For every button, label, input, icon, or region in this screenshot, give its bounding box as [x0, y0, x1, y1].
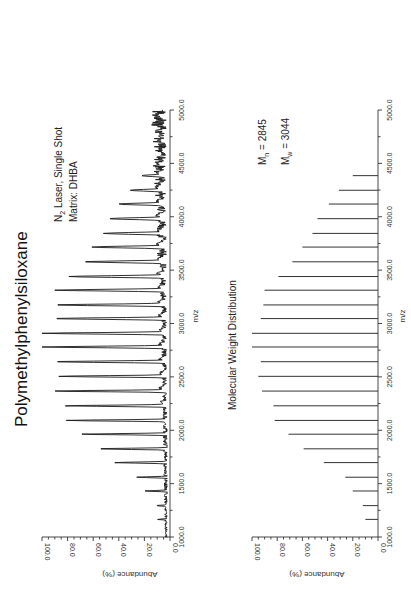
- mz-tick-label: 3500.0: [386, 259, 393, 281]
- chart-title: Polymethylphenylsiloxane: [12, 231, 31, 427]
- mz-tick-label: 4500.0: [386, 153, 393, 175]
- mz-tick-label: 3000.0: [386, 313, 393, 335]
- mz-tick-label: 4000.0: [386, 206, 393, 228]
- mz-tick-label: 1500.0: [178, 473, 185, 495]
- abundance-tick-label: 0.0: [380, 543, 387, 553]
- mass-spectrum-chart: 1000.01500.02000.02500.03000.03500.04000…: [42, 99, 200, 579]
- matrix-annotation: Matrix: DHBA: [68, 161, 79, 222]
- abundance-tick-label: 20.0: [354, 543, 361, 557]
- abundance-tick-label: 60.0: [95, 543, 102, 557]
- abundance-tick-label: 80.0: [279, 543, 286, 557]
- mwd-sticks: [252, 176, 378, 520]
- mn-rest: = 2845: [257, 119, 268, 153]
- mwd-chart: 1000.01500.02000.02500.03000.03500.04000…: [252, 99, 407, 579]
- abundance-tick-label: 40.0: [120, 543, 127, 557]
- mz-tick-label: 2500.0: [178, 366, 185, 388]
- mn-annotation: Mn = 2845: [257, 119, 270, 165]
- laser-prefix: N: [53, 215, 64, 222]
- mz-tick-label: 3000.0: [178, 313, 185, 335]
- abundance-tick-label: 0.0: [172, 543, 179, 553]
- mz-tick-label: 2000.0: [178, 419, 185, 441]
- mz-tick-label: 5000.0: [178, 99, 185, 121]
- mz-tick-label: 1500.0: [386, 473, 393, 495]
- figure: Polymethylphenylsiloxane N2 Laser, Singl…: [0, 0, 411, 608]
- mz-tick-label: 3500.0: [178, 259, 185, 281]
- upper-xlabel: m/z: [191, 310, 200, 323]
- upper-ylabel: Abundance (%): [102, 570, 157, 579]
- mw-rest: = 3044: [280, 118, 291, 152]
- mwd-title: Molecular Weight Distribution: [227, 280, 238, 410]
- mz-tick-label: 4000.0: [178, 206, 185, 228]
- abundance-tick-label: 20.0: [146, 543, 153, 557]
- laser-annotation: N2 Laser, Single Shot: [53, 127, 66, 222]
- lower-xlabel: m/z: [398, 310, 407, 323]
- laser-rest: Laser, Single Shot: [53, 127, 64, 211]
- abundance-tick-label: 100.0: [44, 543, 51, 561]
- mz-tick-label: 2000.0: [386, 419, 393, 441]
- mw-prefix: M: [280, 157, 291, 165]
- abundance-tick-label: 80.0: [69, 543, 76, 557]
- mn-prefix: M: [257, 157, 268, 165]
- abundance-tick-label: 100.0: [254, 543, 261, 561]
- mz-tick-label: 5000.0: [386, 99, 393, 121]
- mz-tick-label: 2500.0: [386, 366, 393, 388]
- mz-tick-label: 4500.0: [178, 153, 185, 175]
- lower-ylabel: Abundance (%): [289, 570, 344, 579]
- abundance-tick-label: 40.0: [329, 543, 336, 557]
- abundance-tick-label: 60.0: [304, 543, 311, 557]
- mw-annotation: Mw = 3044: [280, 118, 293, 165]
